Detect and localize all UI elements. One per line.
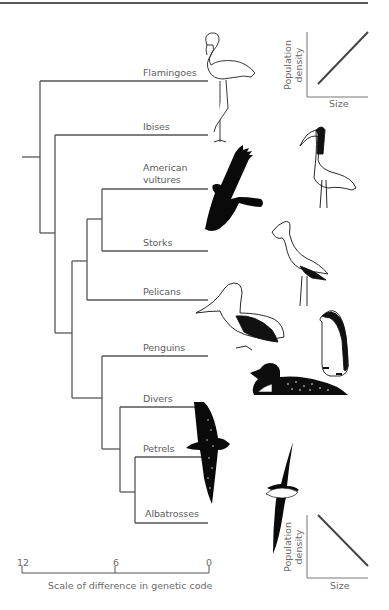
scale-tick-12: 12 (17, 557, 29, 568)
inset-top-ylabel-line2: density (293, 34, 304, 96)
inset-top-ylabel: Population density (282, 34, 304, 96)
taxon-label-penguins: Penguins (143, 342, 185, 353)
inset-bottom-xlabel: Size (330, 580, 350, 591)
taxon-label-american-vultures-2: vultures (143, 174, 181, 185)
taxon-label-albatrosses: Albatrosses (145, 508, 199, 519)
taxon-label-american-vultures-1: American (143, 162, 187, 173)
penguin-icon (320, 311, 348, 376)
inset-top-ylabel-line1: Population (282, 34, 293, 96)
pelican-icon (196, 283, 284, 350)
taxon-label-ibises: Ibises (143, 121, 170, 132)
taxon-label-petrels: Petrels (143, 443, 174, 454)
scale-tick-0: 0 (206, 557, 212, 568)
inset-chart-negative (307, 515, 368, 578)
petrel-icon (186, 402, 230, 504)
tree-branches (22, 81, 208, 523)
trend-line-up (318, 32, 368, 84)
scale-tick-6: 6 (113, 557, 119, 568)
stork-icon (272, 222, 328, 307)
taxon-label-flamingoes: Flamingoes (143, 67, 196, 78)
taxon-label-divers: Divers (143, 393, 173, 404)
inset-chart-positive (307, 32, 368, 97)
trend-line-down (318, 515, 368, 566)
inset-bottom-ylabel: Population density (282, 516, 304, 578)
inset-bottom-ylabel-line2: density (293, 516, 304, 578)
inset-bottom-ylabel-line1: Population (282, 516, 293, 578)
inset-top-xlabel: Size (329, 98, 349, 109)
vulture-icon (205, 145, 263, 231)
taxon-label-storks: Storks (143, 237, 172, 248)
ibis-icon (300, 127, 356, 208)
scale-caption: Scale of difference in genetic code (48, 580, 212, 591)
taxon-label-pelicans: Pelicans (143, 286, 181, 297)
flamingo-icon (206, 33, 255, 142)
